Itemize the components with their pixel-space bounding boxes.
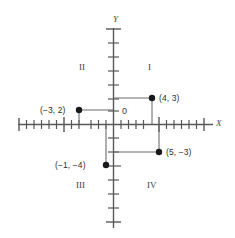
x-axis-label: X — [216, 118, 222, 128]
y-axis-label: Y — [113, 14, 118, 24]
leader-lines-point-5-neg3 — [113, 125, 159, 152]
point-label-4-3: (4, 3) — [159, 93, 179, 103]
leader-lines-point-neg3-2 — [79, 110, 113, 124]
point-label-neg1-neg4: (−1, −4) — [55, 160, 86, 170]
point-marker-neg1-neg4 — [103, 162, 109, 168]
quadrant-label-ii: II — [79, 62, 85, 72]
quadrant-label-iii: III — [76, 180, 85, 190]
point-marker-neg3-2 — [76, 107, 82, 113]
plot-area — [0, 0, 235, 238]
coordinate-plane-diagram: Y X 0 I II III IV (4, 3) (−3, 2) (−1, −4… — [0, 0, 235, 238]
point-label-5-neg3: (5, −3) — [166, 147, 192, 157]
leader-lines-point-4-3 — [114, 98, 152, 124]
origin-label: 0 — [122, 106, 127, 116]
point-marker-4-3 — [149, 95, 155, 101]
quadrant-label-iv: IV — [147, 180, 157, 190]
point-marker-5-neg3 — [156, 149, 162, 155]
quadrant-label-i: I — [148, 62, 151, 72]
point-label-neg3-2: (−3, 2) — [40, 105, 66, 115]
